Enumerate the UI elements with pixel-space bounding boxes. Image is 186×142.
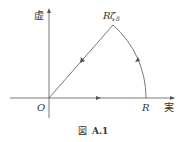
real-axis <box>10 96 175 100</box>
imaginary-axis-arrow-icon <box>47 8 51 13</box>
contour-arc <box>113 25 146 98</box>
contour-diagram: 虚 実 O R R ζ 8 図 A.1 <box>0 0 186 142</box>
caption-number: A.1 <box>91 126 108 136</box>
contour-ray <box>49 25 113 98</box>
real-axis-arrow-icon <box>170 96 175 100</box>
real-axis-label: 実 <box>164 101 174 113</box>
caption-prefix: 図 <box>78 126 87 136</box>
r-label: R <box>141 102 150 113</box>
segment-arrow-right-icon <box>96 96 101 100</box>
imaginary-axis <box>47 8 51 118</box>
apex-label: R ζ 8 <box>102 10 120 22</box>
imag-axis-label: 虚 <box>34 10 44 21</box>
figure-caption: 図 A.1 <box>78 126 108 136</box>
apex-label-sub: 8 <box>116 15 120 22</box>
origin-label: O <box>37 102 45 113</box>
